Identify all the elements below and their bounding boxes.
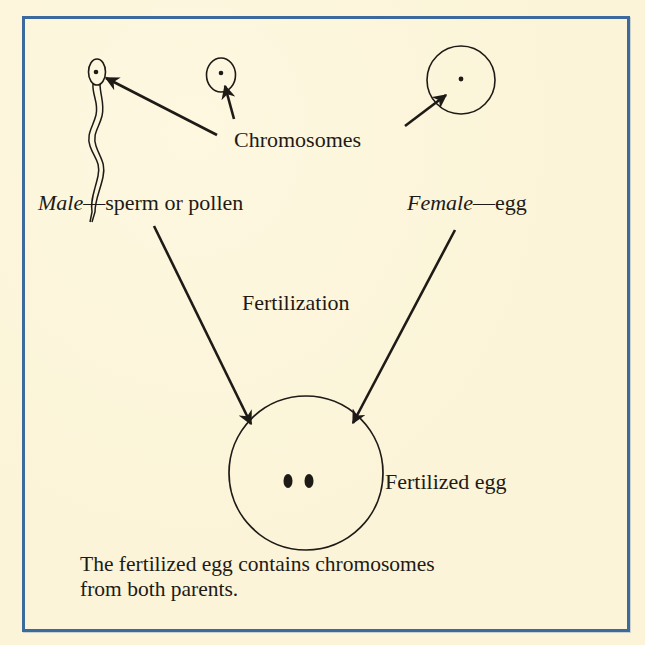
- arrow-to-pollen-chromosome: [225, 86, 234, 119]
- female-label: Female—egg: [407, 192, 527, 214]
- chromosomes-label: Chromosomes: [234, 129, 361, 151]
- egg-cell-icon: [427, 46, 495, 114]
- fertilized-egg-label: Fertilized egg: [385, 471, 507, 493]
- textbook-page: Chromosomes Male—sperm or pollen Female—…: [0, 0, 645, 645]
- egg-chromosome-dot: [459, 77, 464, 82]
- caption-line-2: from both parents.: [80, 577, 435, 602]
- caption-line-1: The fertilized egg contains chromosomes: [80, 552, 435, 577]
- female-label-suffix: —egg: [473, 190, 527, 215]
- chromosome-dot-male: [284, 474, 293, 488]
- chromosome-dot-female: [305, 474, 314, 488]
- fertilized-egg-icon: [229, 396, 383, 550]
- male-label-suffix: —sperm or pollen: [83, 190, 243, 215]
- male-label: Male—sperm or pollen: [38, 192, 243, 214]
- arrow-female-to-fertilized-egg: [353, 230, 455, 423]
- fertilization-diagram: [0, 0, 645, 645]
- male-label-prefix: Male: [38, 190, 83, 215]
- pollen-cell-icon: [207, 58, 236, 92]
- arrow-to-sperm-chromosome: [106, 78, 217, 135]
- figure-caption: The fertilized egg contains chromosomes …: [80, 552, 435, 602]
- arrow-male-to-fertilized-egg: [154, 226, 251, 424]
- pollen-chromosome-dot: [219, 71, 224, 76]
- fertilization-label: Fertilization: [242, 292, 350, 314]
- arrow-to-egg-chromosome: [405, 95, 446, 126]
- female-label-prefix: Female: [407, 190, 473, 215]
- sperm-chromosome-dot: [94, 70, 99, 75]
